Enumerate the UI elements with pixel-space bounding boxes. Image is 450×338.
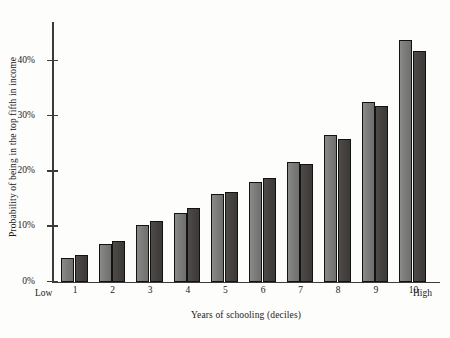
x-axis-low-label: Low: [35, 288, 52, 299]
x-axis-title: Years of schooling (deciles): [52, 310, 440, 320]
bar-group: [249, 23, 277, 282]
bar-series-dark-decile-6: [263, 178, 276, 281]
y-axis-tick: [47, 60, 58, 61]
bar-series-dark-decile-10: [413, 51, 426, 281]
bar-series-dark-decile-5: [225, 192, 238, 281]
y-axis-tick-label: 0%: [1, 276, 35, 286]
bar-series-light-decile-10: [399, 40, 412, 281]
bar-group: [362, 23, 390, 282]
bar-group: [287, 23, 315, 282]
bar-group: [211, 23, 239, 282]
x-axis-tick-label: 3: [136, 285, 164, 296]
y-axis-tick-label: 10%: [1, 220, 35, 230]
y-axis-tick: [47, 281, 58, 282]
bar-series-light-decile-6: [249, 182, 262, 282]
bar-series-dark-decile-8: [338, 139, 351, 281]
bar-series-light-decile-3: [136, 225, 149, 281]
bar-series-dark-decile-7: [300, 164, 313, 282]
y-axis-tick-label: 20%: [1, 165, 35, 175]
x-axis-high-label: High: [413, 288, 432, 299]
x-axis-tick-label: 5: [211, 285, 239, 296]
bar-group: [99, 23, 127, 282]
y-axis-tick: [47, 115, 58, 116]
bar-series-light-decile-7: [287, 162, 300, 282]
x-axis-tick-label: 2: [99, 285, 127, 296]
bar-group: [399, 23, 427, 282]
y-axis-tick: [47, 225, 58, 226]
y-axis-tick: [47, 170, 58, 171]
bar-series-light-decile-8: [324, 135, 337, 282]
bar-series-light-decile-9: [362, 102, 375, 282]
x-axis-tick-label: 6: [249, 285, 277, 296]
bar-group: [174, 23, 202, 282]
x-axis-tick-label: 1: [61, 285, 89, 296]
x-axis-tick-label: 8: [324, 285, 352, 296]
x-axis-tick-label: 7: [287, 285, 315, 296]
bar-series-light-decile-1: [61, 258, 74, 282]
x-axis-tick-label: 9: [362, 285, 390, 296]
x-axis-line: [52, 282, 440, 284]
bar-series-dark-decile-2: [112, 241, 125, 282]
bar-series-light-decile-5: [211, 194, 224, 281]
bar-series-light-decile-4: [174, 213, 187, 281]
bar-chart-figure: Probability of being in the top fifth in…: [0, 0, 450, 338]
bar-group: [324, 23, 352, 282]
bar-series-dark-decile-4: [187, 208, 200, 282]
y-axis-tick-label: 40%: [1, 55, 35, 65]
bar-group: [61, 23, 89, 282]
y-axis-tick-label: 30%: [1, 110, 35, 120]
bar-series-dark-decile-9: [375, 106, 388, 281]
y-axis-title: Probability of being in the top fifth in…: [4, 2, 22, 292]
x-axis-tick-label: 4: [174, 285, 202, 296]
bar-series-dark-decile-1: [75, 255, 88, 281]
bar-series-light-decile-2: [99, 244, 112, 281]
plot-area: 0%10%20%30%40% 12345678910: [52, 22, 440, 283]
bar-series-dark-decile-3: [150, 221, 163, 282]
bar-group: [136, 23, 164, 282]
